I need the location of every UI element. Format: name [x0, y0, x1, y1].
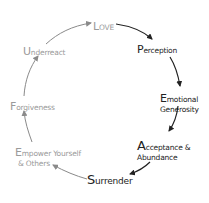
node-empower-yourself-others: Empower Yourself & Others — [15, 143, 81, 168]
node-emotional-generosity: Emotional Generosity — [160, 89, 199, 114]
arrow-perception-to-emotional — [170, 57, 180, 86]
arrow-love-to-perception — [116, 24, 152, 39]
node-acceptance-abundance: Acceptance & Abundance — [137, 137, 190, 162]
arrow-acceptance-to-surrender — [130, 162, 150, 174]
node-love: LOVE — [93, 17, 114, 33]
node-underreact: Underreact — [23, 42, 65, 58]
node-forgiveness: Forgiveness — [10, 97, 55, 113]
arrow-forgiveness-to-underreact — [24, 56, 38, 96]
node-surrender: Surrender — [87, 171, 132, 187]
node-perception: Perception — [137, 40, 177, 56]
arrow-empower-to-forgiveness — [24, 111, 32, 142]
arrow-underreact-to-love — [46, 23, 91, 44]
cycle-diagram: LOVE Perception Emotional Generosity Acc… — [0, 0, 209, 203]
